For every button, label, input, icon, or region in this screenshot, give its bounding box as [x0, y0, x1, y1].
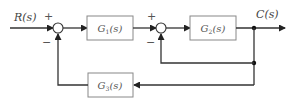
block-g1-label: G1(s): [98, 23, 123, 35]
output-label: C(s): [256, 8, 279, 21]
sum1-plus-sign: +: [44, 10, 53, 23]
g3-to-sum1-line: [58, 34, 88, 85]
summing-junction-1: [53, 23, 63, 33]
block-g2-label: G2(s): [201, 23, 226, 35]
sum2-plus-sign: +: [147, 10, 156, 23]
input-label: R(s): [13, 11, 37, 24]
sum2-minus-sign: −: [146, 36, 155, 49]
block-diagram: R(s) + − G1(s) + − G2(s) C(s) G3(s): [0, 0, 296, 104]
summing-junction-2: [156, 23, 166, 33]
sum1-minus-sign: −: [42, 36, 51, 49]
block-g3-label: G3(s): [98, 80, 123, 92]
